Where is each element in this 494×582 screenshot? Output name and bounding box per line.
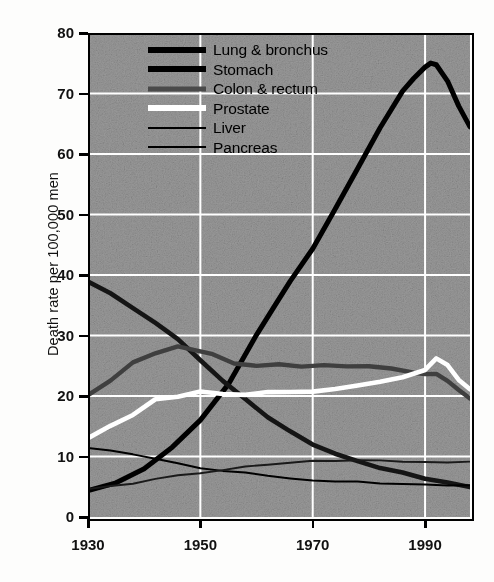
- x-tick-label: 1930: [53, 537, 123, 552]
- legend-label: Prostate: [213, 101, 270, 117]
- x-tick-mark: [312, 519, 315, 528]
- legend-item: Liver: [148, 118, 378, 138]
- legend-swatch-line-icon: [148, 42, 206, 58]
- legend-item: Lung & bronchus: [148, 40, 378, 60]
- cancer-death-rate-chart: Death rate per 100,000 men 8070605040302…: [0, 0, 494, 582]
- legend-item: Colon & rectum: [148, 79, 378, 99]
- y-tick-mark: [79, 153, 88, 156]
- y-tick-label: 0: [36, 509, 74, 524]
- y-tick-mark: [79, 395, 88, 398]
- y-tick-label: 30: [36, 328, 74, 343]
- legend-label: Stomach: [213, 62, 273, 78]
- legend-swatch-line-icon: [148, 61, 206, 77]
- legend-label: Colon & rectum: [213, 81, 318, 97]
- y-tick-mark: [79, 214, 88, 217]
- x-tick-label: 1970: [278, 537, 348, 552]
- y-tick-label: 50: [36, 207, 74, 222]
- legend-item: Pancreas: [148, 138, 378, 158]
- legend-swatch-line-icon: [148, 100, 206, 116]
- y-tick-label: 20: [36, 388, 74, 403]
- legend-label: Liver: [213, 120, 246, 136]
- y-tick-label: 70: [36, 86, 74, 101]
- x-tick-mark: [424, 519, 427, 528]
- x-tick-mark: [199, 519, 202, 528]
- y-tick-mark: [79, 93, 88, 96]
- y-tick-label: 10: [36, 449, 74, 464]
- legend-swatch-line-icon: [148, 81, 206, 97]
- y-tick-label: 60: [36, 146, 74, 161]
- legend-label: Lung & bronchus: [213, 42, 328, 58]
- x-tick-label: 1950: [165, 537, 235, 552]
- legend-label: Pancreas: [213, 140, 277, 156]
- y-tick-label: 40: [36, 267, 74, 282]
- legend: Lung & bronchusStomachColon & rectumPros…: [148, 40, 378, 157]
- legend-swatch-line-icon: [148, 120, 206, 136]
- y-tick-label: 80: [36, 25, 74, 40]
- x-tick-mark: [87, 519, 90, 528]
- y-tick-mark: [79, 456, 88, 459]
- y-tick-mark: [79, 32, 88, 35]
- legend-swatch-line-icon: [148, 139, 206, 155]
- y-axis-ticks: 80706050403020100: [36, 0, 74, 582]
- x-axis-ticks: 1930195019701990: [0, 525, 494, 555]
- legend-item: Prostate: [148, 99, 378, 119]
- legend-item: Stomach: [148, 60, 378, 80]
- y-tick-mark: [79, 274, 88, 277]
- x-tick-label: 1990: [390, 537, 460, 552]
- y-tick-mark: [79, 335, 88, 338]
